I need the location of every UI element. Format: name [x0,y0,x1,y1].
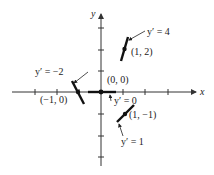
slope-label: y′ = −2 [35,66,63,77]
pointer-arrow [74,72,88,83]
pointer-arrow [110,95,111,101]
point-label: (0, 0) [107,74,129,86]
x-axis-label: x [199,86,205,97]
y-axis-label: y [90,8,96,19]
y-axis: y [90,8,104,166]
slope-label: y′ = 1 [121,136,144,147]
line-element-1-2: y′ = 4 (1, 2) [121,26,170,61]
point-label: (1, −1) [129,109,156,121]
pointer-arrow [129,31,145,40]
line-element-neg1-0: y′ = −2 (−1, 0) [35,66,88,106]
pointer-arrow [119,124,123,136]
diagram-svg: x y y′ = 4 (1, 2) [0,0,214,175]
point-label: (1, 2) [131,46,153,58]
slope-label: y′ = 4 [147,26,170,37]
direction-field-diagram: x y y′ = 4 (1, 2) [0,0,214,175]
point-label: (−1, 0) [40,94,67,106]
slope-label: y′ = 0 [114,95,137,106]
line-element-0-0: y′ = 0 (0, 0) [88,74,137,106]
line-element-1-neg1: y′ = 1 (1, −1) [117,105,156,147]
